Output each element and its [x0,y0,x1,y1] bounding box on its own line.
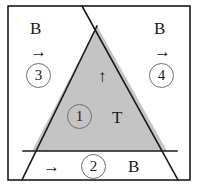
inner-triangle-arrow-icon: ↑ [98,68,107,85]
region-number-1: 1 [67,104,92,129]
region-number-2: 2 [81,154,106,179]
right-region-arrow-icon: → [154,43,171,60]
bottom-region-letter: B [128,158,139,175]
region-number-3: 3 [26,63,51,88]
region-number-4: 4 [149,63,174,88]
left-region-arrow-icon: → [30,43,47,60]
inner-triangle-letter: T [112,109,122,126]
bottom-region-arrow-icon: → [43,158,60,175]
figure-container: B → 3 B → 4 ↑ 1 T → 2 B [0,0,203,190]
right-region-letter: B [154,20,165,37]
left-region-letter: B [30,20,41,37]
